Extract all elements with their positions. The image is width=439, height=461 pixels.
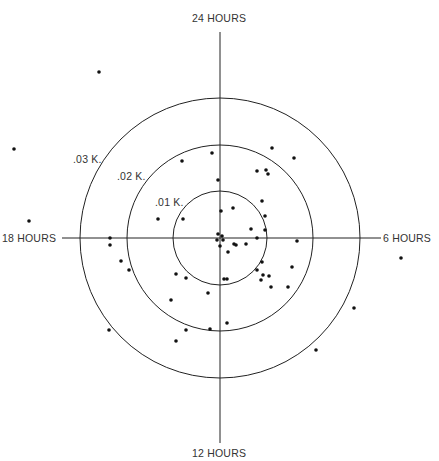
data-point: [255, 169, 259, 173]
data-point: [180, 159, 184, 163]
data-point: [231, 206, 235, 210]
data-point: [260, 260, 264, 264]
ring-label-02: .02 K.: [117, 170, 146, 182]
ring-label-01: .01 K.: [155, 196, 184, 208]
data-point: [260, 199, 264, 203]
data-point: [107, 328, 111, 332]
data-point: [27, 219, 31, 223]
data-point: [225, 321, 229, 325]
data-point: [184, 328, 188, 332]
data-point: [174, 339, 178, 343]
data-point: [184, 276, 188, 280]
data-point: [314, 348, 318, 352]
axis-label-24-hours: 24 HOURS: [192, 12, 246, 24]
data-point: [174, 272, 178, 276]
data-point: [219, 209, 223, 213]
data-point: [295, 239, 299, 243]
data-point: [181, 217, 185, 221]
data-point: [215, 238, 219, 242]
data-point: [220, 234, 224, 238]
ring-label-03: .03 K.: [73, 153, 102, 165]
axis-label-18-hours: 18 HOURS: [2, 232, 56, 244]
data-point: [286, 285, 290, 289]
data-point: [119, 259, 123, 263]
data-point: [234, 243, 238, 247]
data-point: [108, 236, 112, 240]
data-point: [216, 178, 220, 182]
data-point: [226, 250, 230, 254]
data-point: [352, 306, 356, 310]
axis-label-6-hours: 6 HOURS: [383, 232, 431, 244]
data-point: [208, 327, 212, 331]
data-point: [259, 278, 263, 282]
data-point: [255, 268, 259, 272]
data-point: [292, 156, 296, 160]
data-point: [222, 277, 226, 281]
data-point: [206, 291, 210, 295]
polar-plot: [0, 0, 439, 461]
data-point: [221, 238, 225, 242]
data-point: [218, 244, 222, 248]
axis-label-12-hours: 12 HOURS: [192, 447, 246, 459]
data-point: [266, 172, 270, 176]
data-point: [261, 273, 265, 277]
data-point: [12, 147, 16, 151]
data-point: [169, 298, 173, 302]
data-point: [270, 146, 274, 150]
data-point: [263, 214, 267, 218]
data-point: [269, 285, 273, 289]
data-point: [264, 168, 268, 172]
data-point: [263, 228, 267, 232]
data-point: [244, 242, 248, 246]
data-points: [12, 70, 403, 352]
data-point: [267, 274, 271, 278]
data-point: [255, 236, 259, 240]
data-point: [156, 217, 160, 221]
data-point: [290, 265, 294, 269]
data-point: [127, 268, 131, 272]
data-point: [399, 256, 403, 260]
data-point: [216, 232, 220, 236]
data-point: [108, 243, 112, 247]
data-point: [249, 227, 253, 231]
data-point: [97, 70, 101, 74]
data-point: [210, 151, 214, 155]
